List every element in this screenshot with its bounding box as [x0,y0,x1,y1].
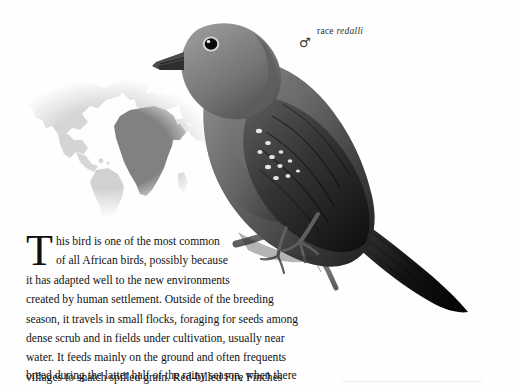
distribution-map [2,78,207,218]
guide-page: race redalli ♂ T his bird is one of the … [0,0,513,388]
bird-eye [203,36,219,51]
paragraph-last-line: breed during the latter half of the rain… [26,366,486,385]
caption-prefix: race [317,26,336,36]
map-highlight-africa [114,106,186,196]
paragraph-line: season, it travels in small flocks, fora… [26,310,356,329]
drop-cap: T [26,232,55,268]
paragraph-line: of all African birds, possibly because [26,251,356,270]
page-edge-artifact [342,381,482,382]
bird-tail [348,214,468,312]
paragraph-line: it has adapted well to the new environme… [26,271,356,290]
male-symbol-icon: ♂ [299,36,311,49]
bird-beak [152,52,184,70]
race-caption: race redalli [317,26,363,36]
flank-spots [256,129,300,180]
paragraph-line: his bird is one of the most common [26,232,356,251]
paragraph-line: dense scrub and in fields under cultivat… [26,329,356,348]
caption-race-name: redalli [336,26,363,36]
paragraph-line: created by human settlement. Outside of … [26,290,356,309]
paragraph-line: water. It feeds mainly on the ground and… [26,348,356,367]
bird-wing [243,96,369,252]
description-text: T his bird is one of the most common of … [26,232,356,387]
map-landmasses [18,78,207,218]
